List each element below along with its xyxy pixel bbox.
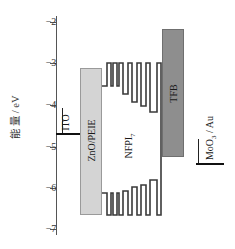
nfpi7-label-text: NFPI: [123, 137, 134, 159]
nfpi7-label-subscript: 7: [129, 133, 137, 137]
moo3-au-label-subscript: 3: [210, 135, 218, 139]
nfpi7-quantum-well-outline: [0, 0, 235, 249]
energy-level-diagram: −2 −3 −4 −5 −6 −7 能 量 / eV ITO ZnO/PEIE …: [0, 0, 235, 249]
tfb-label: TFB: [168, 80, 179, 108]
moo3-au-label-text: MoO: [204, 139, 215, 160]
moo3-au-label: MoO3 / Au: [204, 107, 220, 169]
moo3-au-label-tail: / Au: [204, 116, 215, 135]
nfpi7-label: NFPI7: [123, 126, 139, 166]
moo3-au-lead-line: [198, 139, 199, 163]
